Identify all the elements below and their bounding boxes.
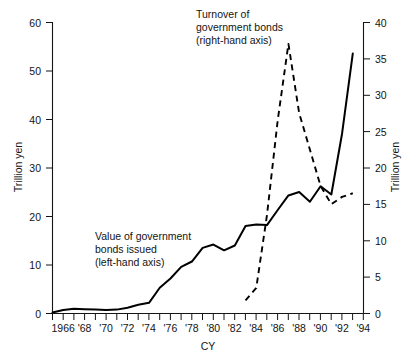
right-tick-label: 25 <box>375 126 387 138</box>
annotation-turnover-line3: (right-hand axis) <box>196 34 272 46</box>
x-tick-label: '86 <box>271 322 285 334</box>
x-tick-label: '70 <box>99 322 113 334</box>
annotation-turnover-line1: Turnover of <box>196 8 249 20</box>
left-axis-title: Trillion yen <box>12 142 24 193</box>
left-tick-label: 20 <box>29 211 41 223</box>
x-tick-label: '72 <box>121 322 135 334</box>
x-tick-label: '76 <box>164 322 178 334</box>
right-tick-label: 15 <box>375 198 387 210</box>
left-tick-label: 60 <box>29 17 41 29</box>
annotation-turnover-line2: government bonds <box>196 21 283 33</box>
x-tick-label: '80 <box>206 322 220 334</box>
annotation-turnover: Turnover of government bonds (right-hand… <box>196 8 283 46</box>
left-axis-ticks <box>46 23 53 314</box>
x-tick-label: '82 <box>228 322 242 334</box>
annotation-issued-line2: bonds issued <box>95 243 157 255</box>
annotation-issued: Value of government bonds issued (left-h… <box>95 230 191 268</box>
x-tick-label: '68 <box>78 322 92 334</box>
x-tick-label: '94 <box>356 322 370 334</box>
series-line-bonds-issued <box>53 54 353 313</box>
x-tick-label: 1966 <box>52 322 76 334</box>
right-tick-label: 35 <box>375 53 387 65</box>
left-axis-tick-labels: 60 50 40 30 20 10 0 <box>29 17 41 320</box>
right-axis-tick-labels: 40 35 30 25 20 15 10 5 0 <box>375 17 387 320</box>
x-tick-label: '84 <box>249 322 263 334</box>
left-tick-label: 50 <box>29 65 41 77</box>
line-chart-svg: 60 50 40 30 20 10 0 Trillion yen 40 35 3… <box>0 0 410 361</box>
x-axis-ticks <box>53 314 364 321</box>
right-tick-label: 30 <box>375 89 387 101</box>
annotation-issued-line1: Value of government <box>95 230 191 242</box>
x-axis-title: CY <box>201 340 216 352</box>
left-tick-label: 40 <box>29 114 41 126</box>
x-axis-tick-labels: 1966 '68 '70 '72 '74 '76 '78 '80 '82 '84… <box>52 322 371 334</box>
series-line-bonds-turnover <box>246 44 353 301</box>
right-tick-label: 0 <box>375 308 381 320</box>
x-tick-label: '88 <box>292 322 306 334</box>
left-tick-label: 0 <box>35 308 41 320</box>
right-tick-label: 20 <box>375 162 387 174</box>
chart-container: 60 50 40 30 20 10 0 Trillion yen 40 35 3… <box>0 0 410 361</box>
x-tick-label: '74 <box>142 322 156 334</box>
right-tick-label: 5 <box>375 271 381 283</box>
x-tick-label: '90 <box>314 322 328 334</box>
right-axis-title: Trillion yen <box>389 142 401 193</box>
left-tick-label: 10 <box>29 259 41 271</box>
left-tick-label: 30 <box>29 162 41 174</box>
x-tick-label: '92 <box>335 322 349 334</box>
annotation-issued-line3: (left-hand axis) <box>95 256 164 268</box>
right-tick-label: 10 <box>375 235 387 247</box>
right-tick-label: 40 <box>375 17 387 29</box>
x-tick-label: '78 <box>185 322 199 334</box>
right-axis-ticks <box>364 23 371 314</box>
